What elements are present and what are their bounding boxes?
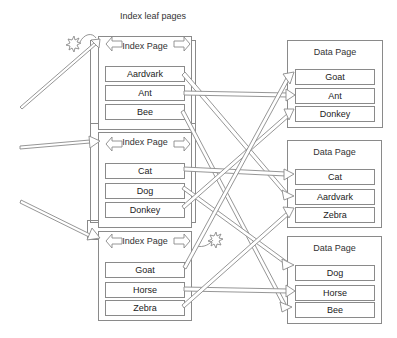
data-page-2: Data Page Cat Aardvark Zebra xyxy=(287,140,382,228)
index-entry-horse: Horse xyxy=(105,282,185,298)
data-entry-bee: Bee xyxy=(295,302,375,318)
index-entry-cat: Cat xyxy=(105,163,185,179)
data-entry-horse: Horse xyxy=(295,285,375,301)
pointer-arrows xyxy=(181,72,290,308)
index-page-3: Index Page Goat Horse Zebra xyxy=(98,231,192,321)
index-page-1: Index Page Aardvark Ant Bee xyxy=(98,36,192,130)
index-entry-ant: Ant xyxy=(105,85,185,101)
data-page-title: Data Page xyxy=(288,147,381,157)
index-entry-goat: Goat xyxy=(105,262,185,278)
index-page-title: Index Page xyxy=(99,137,191,147)
data-entry-cat: Cat xyxy=(295,169,375,185)
index-stack-frame-3 xyxy=(87,220,98,240)
incoming-parent-arrows xyxy=(20,39,100,240)
data-entry-dog: Dog xyxy=(295,265,375,281)
data-entry-aardvark: Aardvark xyxy=(295,189,375,205)
index-page-2: Index Page Cat Dog Donkey xyxy=(98,132,192,228)
data-page-title: Data Page xyxy=(288,243,381,253)
star-icon xyxy=(66,36,81,52)
data-page-title: Data Page xyxy=(288,47,382,57)
diagram-title: Index leaf pages xyxy=(120,11,186,21)
star-icon xyxy=(208,232,223,248)
data-entry-donkey: Donkey xyxy=(295,106,375,122)
data-entry-ant: Ant xyxy=(295,88,375,104)
index-entry-aardvark: Aardvark xyxy=(105,66,185,82)
curved-hook-bottom xyxy=(196,240,213,247)
index-entry-dog: Dog xyxy=(105,183,185,199)
data-page-3: Data Page Dog Horse Bee xyxy=(287,236,382,324)
data-entry-goat: Goat xyxy=(295,69,375,85)
index-page-title: Index Page xyxy=(99,236,191,246)
data-entry-zebra: Zebra xyxy=(295,207,375,223)
data-page-1: Data Page Goat Ant Donkey xyxy=(287,40,383,128)
index-entry-zebra: Zebra xyxy=(105,300,185,316)
index-page-title: Index Page xyxy=(99,41,191,51)
index-entry-donkey: Donkey xyxy=(105,202,185,218)
index-entry-bee: Bee xyxy=(105,104,185,120)
